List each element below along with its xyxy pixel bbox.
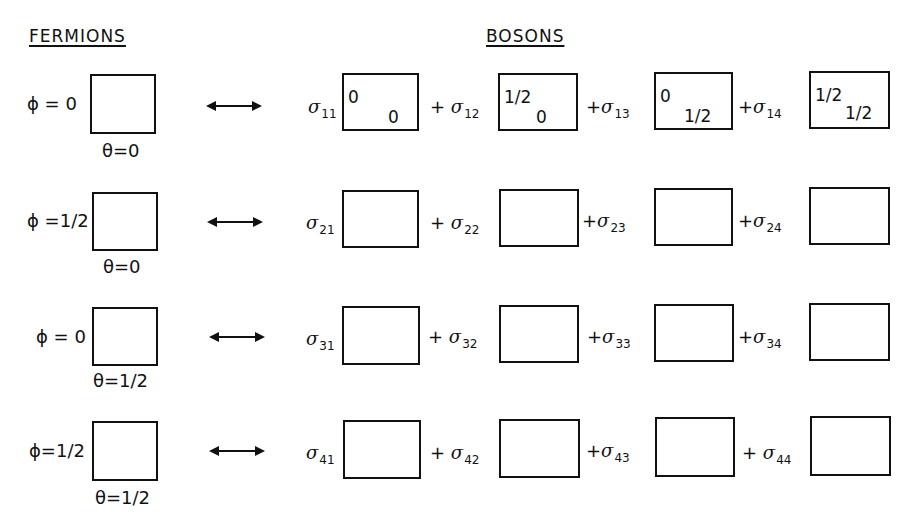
box-bottom-right-value: 1/2 [684, 106, 711, 126]
coefficient-sigma-12: + σ12 [430, 96, 479, 121]
bosons-heading: BOSONS [486, 26, 564, 46]
coefficient-sigma-11: σ11 [308, 96, 337, 121]
theta-label: θ=0 [103, 256, 141, 277]
boson-box-13: 0 1/2 [654, 72, 733, 130]
double-headed-arrow-icon [209, 331, 265, 343]
coefficient-sigma-21: σ21 [306, 212, 335, 237]
double-headed-arrow-icon [207, 216, 263, 228]
boson-box-12: 1/2 0 [498, 73, 578, 131]
coefficient-sigma-32: + σ32 [428, 326, 477, 351]
boson-box-21 [342, 190, 419, 248]
coefficient-sigma-43: +σ43 [586, 440, 630, 465]
boson-box-43 [655, 417, 735, 477]
theta-label: θ=0 [102, 140, 140, 161]
box-bottom-right-value: 0 [388, 107, 399, 127]
box-bottom-right-value: 1/2 [845, 103, 872, 123]
box-top-left-value: 1/2 [815, 85, 842, 105]
coefficient-sigma-13: +σ13 [586, 96, 630, 121]
theta-label: θ=1/2 [93, 370, 148, 391]
boson-box-44 [810, 416, 891, 476]
boson-box-32 [499, 305, 579, 363]
fermions-heading: FERMIONS [29, 26, 126, 46]
double-headed-arrow-icon [209, 445, 265, 457]
phi-label: ϕ = 0 [27, 93, 77, 114]
phi-label: ϕ =1/2 [27, 210, 89, 231]
boson-box-14: 1/2 1/2 [809, 71, 890, 129]
coefficient-sigma-31: σ31 [306, 328, 335, 353]
fermion-box [92, 307, 158, 366]
box-top-left-value: 0 [348, 87, 359, 107]
fermion-box [92, 192, 158, 251]
fermion-box [90, 74, 156, 134]
coefficient-sigma-41: σ41 [306, 442, 335, 467]
boson-box-41 [343, 420, 421, 479]
boson-box-42 [499, 419, 580, 478]
coefficient-sigma-42: + σ42 [430, 442, 479, 467]
fermion-box [92, 421, 158, 481]
box-bottom-right-value: 0 [536, 107, 547, 127]
boson-box-23 [654, 188, 733, 246]
coefficient-sigma-14: +σ14 [738, 96, 782, 121]
phi-label: ϕ=1/2 [29, 440, 85, 461]
coefficient-sigma-33: +σ33 [587, 326, 631, 351]
boson-box-34 [809, 303, 890, 361]
phi-label: ϕ = 0 [36, 326, 86, 347]
box-top-left-value: 1/2 [504, 87, 531, 107]
boson-box-11: 0 0 [342, 73, 419, 131]
box-top-left-value: 0 [660, 86, 671, 106]
coefficient-sigma-23: +σ23 [582, 210, 626, 235]
theta-label: θ=1/2 [95, 487, 150, 508]
coefficient-sigma-44: + σ44 [742, 442, 791, 467]
boson-box-24 [809, 187, 890, 245]
boson-box-33 [654, 304, 734, 362]
coefficient-sigma-34: +σ34 [738, 326, 782, 351]
boson-box-22 [499, 189, 579, 247]
boson-box-31 [342, 306, 420, 365]
coefficient-sigma-22: + σ22 [430, 212, 479, 237]
coefficient-sigma-24: +σ24 [738, 210, 782, 235]
double-headed-arrow-icon [206, 100, 262, 112]
